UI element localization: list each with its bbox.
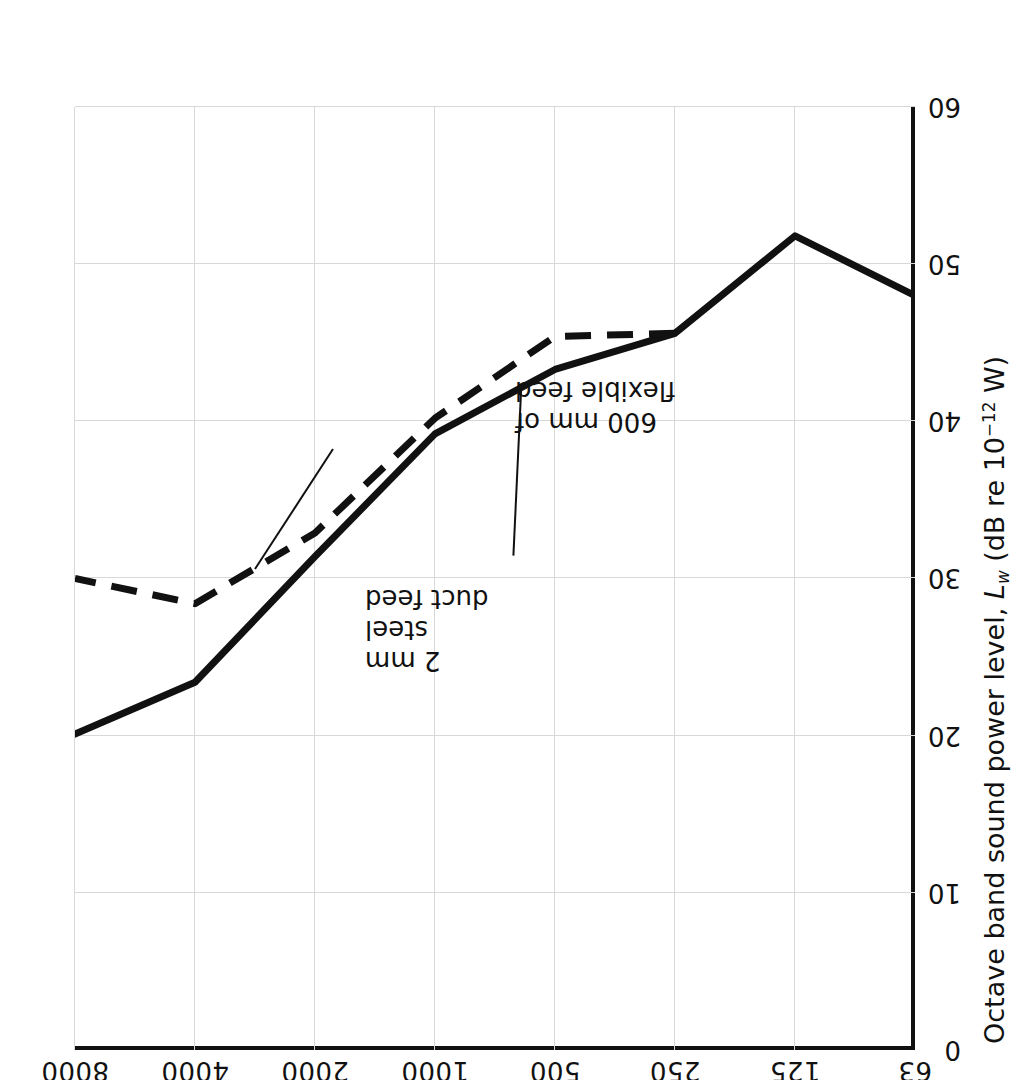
y-tick-label: 20 <box>928 721 961 751</box>
y-tick-label: 60 <box>928 92 961 122</box>
annotation-flexible-feed: 600 mm of flexible feed <box>515 376 765 437</box>
plot-area <box>75 107 915 1050</box>
y-tick-label: 30 <box>928 564 961 594</box>
y-tick-label: 10 <box>928 878 961 908</box>
x-tick-label: 1000 <box>401 1056 469 1080</box>
y-tick-label: 40 <box>928 406 961 436</box>
x-tick-label: 125 <box>769 1056 820 1080</box>
y-axis-title: Octave band sound power level, Lw (dB re… <box>979 356 1013 1044</box>
x-tick-label: 500 <box>529 1056 580 1080</box>
x-tick-label: 63 <box>898 1056 932 1080</box>
y-tick-label: 0 <box>944 1035 961 1065</box>
y-tick-label: 50 <box>928 249 961 279</box>
x-tick-label: 8000 <box>41 1056 109 1080</box>
x-tick-label: 4000 <box>161 1056 229 1080</box>
y-axis-title-text: Octave band sound power level, Lw (dB re… <box>979 356 1010 1044</box>
series-layer <box>75 107 915 1050</box>
annotation-steel-duct-feed: 2 mm steel duct feed <box>365 584 575 676</box>
series-line-flexible-feed <box>75 333 675 603</box>
figure-root: Frequency (Hz) Octave band sound power l… <box>0 0 1033 1080</box>
x-tick-label: 2000 <box>281 1056 349 1080</box>
x-tick-label: 250 <box>649 1056 700 1080</box>
